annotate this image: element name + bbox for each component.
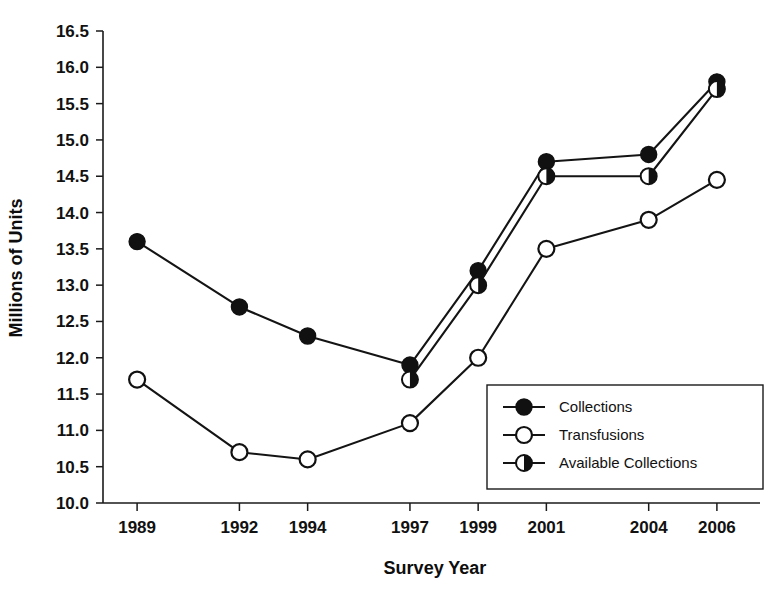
y-axis: 10.010.511.011.512.012.513.013.514.014.5…	[56, 22, 103, 513]
x-tick-label: 1997	[391, 518, 429, 537]
y-tick-label: 10.5	[56, 458, 89, 477]
y-tick-label: 14.0	[56, 204, 89, 223]
data-point-half	[641, 168, 657, 184]
data-point-half	[709, 81, 725, 97]
y-tick-label: 14.5	[56, 167, 89, 186]
legend-entry-label: Collections	[559, 398, 632, 415]
data-point-filled	[516, 399, 532, 415]
y-tick-label: 13.5	[56, 240, 89, 259]
legend-entry-label: Available Collections	[559, 454, 697, 471]
chart-figure: Millions of Units Survey Year 10.010.511…	[0, 0, 780, 599]
data-point-open	[300, 451, 316, 467]
y-tick-label: 16.0	[56, 58, 89, 77]
y-axis-title: Millions of Units	[6, 199, 26, 338]
data-point-open	[470, 350, 486, 366]
legend-entry: Transfusions	[503, 426, 644, 443]
x-tick-label: 1994	[289, 518, 327, 537]
data-point-filled	[231, 299, 247, 315]
x-tick-label: 2004	[630, 518, 668, 537]
y-tick-label: 12.5	[56, 312, 89, 331]
data-point-half	[402, 372, 418, 388]
x-axis-title: Survey Year	[384, 558, 487, 578]
data-point-open	[231, 444, 247, 460]
line-chart-svg: Millions of Units Survey Year 10.010.511…	[0, 0, 780, 599]
x-axis: 19891992199419971999200120042006	[103, 503, 760, 537]
data-point-half	[470, 277, 486, 293]
data-point-filled	[129, 234, 145, 250]
y-tick-label: 11.5	[57, 385, 89, 404]
data-point-open	[402, 415, 418, 431]
data-point-open	[516, 427, 532, 443]
series-line	[137, 82, 717, 365]
chart-legend: CollectionsTransfusionsAvailable Collect…	[487, 385, 763, 489]
x-tick-label: 1989	[118, 518, 156, 537]
y-axis-title-text: Millions of Units	[6, 199, 26, 338]
data-point-filled	[300, 328, 316, 344]
y-tick-label: 12.0	[56, 349, 89, 368]
data-point-half	[516, 455, 532, 471]
y-tick-label: 11.0	[57, 421, 89, 440]
data-point-open	[709, 172, 725, 188]
x-tick-label: 1992	[221, 518, 259, 537]
y-tick-label: 10.0	[56, 494, 89, 513]
legend-entry: Collections	[503, 398, 632, 415]
x-tick-label: 2001	[527, 518, 565, 537]
y-tick-label: 16.5	[56, 22, 89, 41]
data-point-open	[538, 241, 554, 257]
y-tick-label: 15.5	[56, 95, 89, 114]
data-point-open	[641, 212, 657, 228]
x-tick-label: 1999	[459, 518, 497, 537]
legend-entry-label: Transfusions	[559, 426, 644, 443]
x-tick-label: 2006	[698, 518, 736, 537]
y-tick-label: 15.0	[56, 131, 89, 150]
y-tick-label: 13.0	[56, 276, 89, 295]
x-axis-title-text: Survey Year	[384, 558, 487, 578]
data-point-filled	[641, 146, 657, 162]
series-line	[410, 89, 717, 379]
data-point-open	[129, 372, 145, 388]
data-point-half	[538, 168, 554, 184]
series-available-collections	[402, 81, 725, 387]
